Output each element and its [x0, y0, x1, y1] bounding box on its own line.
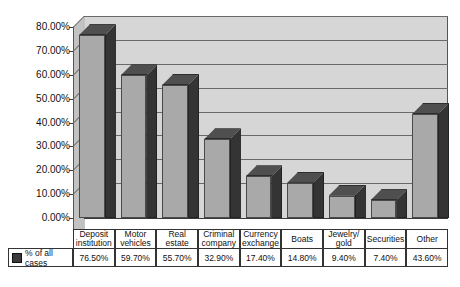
bar-side-face	[146, 64, 157, 218]
bar-side-face	[188, 74, 199, 218]
category-header-cell: Motorvehicles	[115, 229, 157, 249]
table-column: Currencyexchange17.40%	[240, 229, 282, 267]
table-column: Jewelry/gold9.40%	[323, 229, 365, 267]
bar-front-face	[162, 85, 188, 218]
category-value-table: Depositinstitution76.50%Motorvehicles59.…	[73, 229, 448, 267]
bar-front-face	[79, 35, 105, 218]
bar-front-face	[204, 139, 230, 218]
y-axis-tick-label: 50.00%	[2, 94, 70, 104]
value-cell: 9.40%	[323, 249, 365, 267]
value-cell: 14.80%	[281, 249, 323, 267]
table-column: Other43.60%	[406, 229, 448, 267]
value-cell: 32.90%	[198, 249, 240, 267]
bar	[412, 103, 438, 218]
bar	[246, 165, 272, 218]
legend-label: % of all cases	[25, 248, 72, 268]
bar-front-face	[329, 196, 355, 218]
y-axis-tick-label: 40.00%	[2, 118, 70, 128]
table-column: Criminalcompany32.90%	[198, 229, 240, 267]
bar-front-face	[371, 200, 397, 218]
table-column: Depositinstitution76.50%	[73, 229, 115, 267]
bar-side-face	[230, 128, 241, 218]
y-axis-tick-label: 30.00%	[2, 141, 70, 151]
category-header-cell: Other	[406, 229, 448, 249]
bar	[121, 64, 147, 218]
value-cell: 17.40%	[240, 249, 282, 267]
table-column: Boats14.80%	[281, 229, 323, 267]
bar-side-face	[438, 103, 449, 218]
axis-baseline	[84, 218, 448, 219]
category-header-cell: Depositinstitution	[73, 229, 115, 249]
value-cell: 43.60%	[406, 249, 448, 267]
category-header-cell: Securities	[365, 229, 407, 249]
y-axis-tick-label: 70.00%	[2, 46, 70, 56]
value-cell: 55.70%	[156, 249, 198, 267]
category-header-cell: Jewelry/gold	[323, 229, 365, 249]
table-column: Securities7.40%	[365, 229, 407, 267]
y-axis-tick-label: 20.00%	[2, 165, 70, 175]
bar-front-face	[287, 183, 313, 218]
legend-cell: % of all cases	[8, 248, 73, 267]
table-column: Motorvehicles59.70%	[115, 229, 157, 267]
value-cell: 7.40%	[365, 249, 407, 267]
bar	[287, 172, 313, 218]
y-axis-tick-label: 60.00%	[2, 70, 70, 80]
y-axis-tick-label: 10.00%	[2, 189, 70, 199]
value-cell: 59.70%	[115, 249, 157, 267]
gridline	[84, 40, 448, 41]
bar-front-face	[412, 114, 438, 218]
category-header-cell: Currencyexchange	[240, 229, 282, 249]
bar-front-face	[246, 176, 272, 218]
plot-area	[73, 16, 448, 230]
category-header-cell: Boats	[281, 229, 323, 249]
value-cell: 76.50%	[73, 249, 115, 267]
category-header-cell: Real estate	[156, 229, 198, 249]
bar	[79, 24, 105, 218]
bar	[371, 189, 397, 218]
bar	[162, 74, 188, 218]
bar	[329, 185, 355, 218]
category-header-cell: Criminalcompany	[198, 229, 240, 249]
series-color-swatch-icon	[12, 253, 22, 263]
table-column: Real estate55.70%	[156, 229, 198, 267]
bar-side-face	[105, 24, 116, 218]
y-axis: 80.00%70.00%60.00%50.00%40.00%30.00%20.0…	[0, 0, 70, 240]
gridline	[84, 16, 448, 17]
bar-front-face	[121, 75, 147, 218]
bar	[204, 128, 230, 218]
y-axis-tick-label: 0.00%	[2, 213, 70, 223]
y-axis-tick-label: 80.00%	[2, 22, 70, 32]
chart-container: 80.00%70.00%60.00%50.00%40.00%30.00%20.0…	[0, 0, 460, 287]
